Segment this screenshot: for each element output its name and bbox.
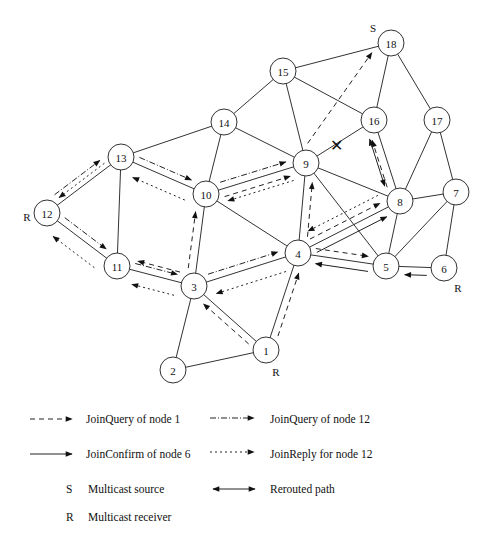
node-11: 11	[104, 253, 130, 279]
link-9-15	[283, 71, 306, 163]
link-9-14	[224, 122, 306, 163]
node-label: 1	[263, 345, 269, 357]
joinquery1-arrow-3-10	[188, 212, 195, 268]
node-label: 11	[112, 261, 123, 273]
node-label: 3	[191, 281, 197, 293]
node-12: 12R	[23, 200, 60, 226]
joinquery1-arrow-4-8	[310, 203, 380, 239]
legend-joinreply12-label: JoinReply for node 12	[270, 448, 373, 461]
receiver-marker: R	[454, 282, 462, 294]
node-label: 18	[386, 38, 398, 50]
node-10: 10	[193, 181, 219, 207]
link-8-9	[306, 163, 400, 201]
legend-receiver-label: Multicast receiver	[88, 511, 172, 523]
node-label: 8	[397, 196, 403, 208]
message-arrows	[53, 53, 427, 344]
node-label: 17	[432, 115, 444, 127]
link-1-2	[173, 350, 266, 370]
joinquery1-arrow-3-11	[138, 261, 180, 272]
node-17: 17	[424, 107, 450, 133]
link-10-13	[121, 157, 206, 194]
node-4: 4	[285, 240, 311, 266]
joinconfirm6-arrow-5-4	[316, 264, 368, 272]
link-3-4	[194, 253, 298, 286]
node-8: 8	[387, 188, 413, 214]
node-label: 4	[295, 248, 301, 260]
node-1: 1R	[253, 337, 280, 378]
node-18: 18S	[370, 22, 404, 56]
receiver-marker: R	[272, 366, 280, 378]
node-15: 15	[270, 58, 296, 84]
broken-link-x-icon: ✕	[330, 137, 343, 154]
joinquery1-arrow-4-5	[316, 249, 368, 257]
node-label: 15	[278, 66, 290, 78]
legend-joinquery12-label: JoinQuery of node 12	[270, 413, 370, 426]
legend: JoinQuery of node 1 JoinQuery of node 12…	[30, 413, 373, 523]
link-9-10	[206, 163, 306, 194]
node-label: 9	[303, 158, 309, 170]
joinquery1-arrow-4-9	[307, 183, 312, 237]
link-4-8	[298, 201, 400, 253]
node-6: 6R	[431, 255, 462, 294]
node-label: 10	[201, 189, 213, 201]
node-13: 13	[108, 144, 134, 170]
node-7: 7	[443, 179, 469, 205]
node-9: 9	[293, 150, 319, 176]
link-12-13	[47, 157, 121, 213]
joinconfirm6-arrow-6-5	[405, 275, 427, 276]
node-label: 7	[453, 187, 459, 199]
network-nodes: 1R23456R789101112R131415161718S	[23, 22, 469, 383]
legend-source-symbol: S	[66, 483, 72, 495]
node-2: 2	[160, 357, 186, 383]
joinquery1-arrow-8-16	[372, 141, 387, 188]
node-label: 5	[383, 261, 389, 273]
joinreply12-arrow-13-12	[59, 163, 104, 197]
link-1-4	[266, 253, 298, 350]
node-label: 6	[441, 263, 447, 275]
legend-joinquery1-label: JoinQuery of node 1	[86, 413, 180, 426]
joinquery1-arrow-9-18	[308, 53, 372, 144]
joinquery12-arrow-12-11	[65, 218, 106, 249]
node-label: 14	[219, 117, 231, 129]
multicast-network-diagram: ✕ 1R23456R789101112R131415161718S JoinQu…	[0, 0, 493, 538]
link-13-14	[121, 122, 224, 157]
link-15-16	[283, 71, 374, 120]
link-4-9	[298, 163, 306, 253]
joinreply12-arrow-4-3	[216, 271, 286, 293]
node-16: 16	[361, 107, 387, 133]
node-14: 14	[211, 109, 237, 135]
broken-link-marker: ✕	[330, 137, 343, 154]
node-label: 12	[42, 208, 53, 220]
legend-source-label: Multicast source	[88, 483, 164, 495]
joinquery1-arrow-10-9	[225, 176, 291, 196]
link-1-3	[194, 286, 266, 350]
joinquery1-arrow-1-3	[204, 304, 249, 344]
joinreply12-arrow-3-11	[132, 284, 174, 295]
node-label: 16	[369, 115, 381, 127]
link-11-13	[117, 157, 121, 266]
node-5: 5	[373, 253, 399, 279]
source-marker: S	[370, 22, 376, 34]
link-3-10	[194, 194, 206, 286]
link-15-18	[283, 43, 391, 71]
legend-joinconfirm6-label: JoinConfirm of node 6	[86, 448, 191, 460]
joinreply12-arrow-11-12	[53, 236, 94, 267]
link-4-10	[206, 194, 298, 253]
joinreply12-arrow-10-13	[133, 177, 185, 200]
joinreply12-arrow-8-4	[308, 195, 378, 231]
node-3: 3	[181, 273, 207, 299]
legend-receiver-symbol: R	[66, 511, 74, 523]
node-label: 13	[116, 152, 128, 164]
legend-rerouted-label: Rerouted path	[270, 483, 335, 496]
node-label: 2	[170, 365, 176, 377]
joinreply12-arrow-9-10	[228, 180, 294, 200]
receiver-marker: R	[23, 211, 31, 223]
